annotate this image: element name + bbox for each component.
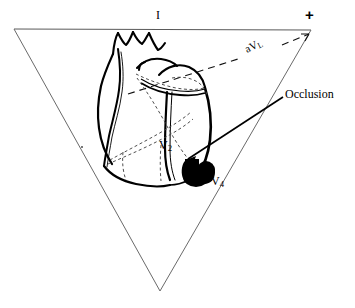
occlusion-label: Occlusion xyxy=(285,88,334,100)
ascending-aorta-outline xyxy=(98,54,113,164)
arch-descending-limb xyxy=(149,33,165,50)
brachiocephalic-branch xyxy=(113,33,118,54)
lead-I-label: I xyxy=(156,9,160,21)
einthoven-triangle xyxy=(14,29,311,291)
triangle-edge-lead-I xyxy=(14,29,311,30)
dashed-lv-cavity xyxy=(110,112,191,160)
lead-I-text: I xyxy=(156,8,160,22)
appendage-tip-hook xyxy=(139,62,145,70)
positive-pole-label: + xyxy=(305,7,314,22)
interventricular-groove-left xyxy=(165,92,170,180)
v3-prefix-text: V xyxy=(186,159,195,173)
occlusion-pointer xyxy=(186,97,283,165)
reference-dot xyxy=(81,146,83,148)
avl-axis xyxy=(128,34,309,94)
v2-prefix-text: V xyxy=(159,138,168,152)
v2-label: V2 xyxy=(159,139,172,153)
occlusion-text: Occlusion xyxy=(285,87,334,101)
v2-subscript-text: 2 xyxy=(168,143,172,153)
left-subclavian-branch xyxy=(133,32,149,44)
v3-label: V3 xyxy=(186,160,199,174)
left-carotid-branch xyxy=(118,32,133,45)
v3-subscript-text: 3 xyxy=(195,164,199,174)
v4-prefix-text: V xyxy=(211,174,220,188)
occlusion-pointer-line xyxy=(188,97,283,159)
v4-subscript-text: 4 xyxy=(220,179,224,189)
left-heart-border xyxy=(104,49,120,166)
figure-root: I + aVL Occlusion V2 V3 V4 xyxy=(0,0,355,308)
aortic-arch-branches xyxy=(113,32,165,54)
v4-label: V4 xyxy=(211,175,224,189)
left-atrium-dome xyxy=(159,65,205,87)
dashed-inferior-rim xyxy=(108,119,193,164)
positive-pole-text: + xyxy=(305,6,314,23)
einthoven-triangle-heart-diagram xyxy=(0,0,355,308)
triangle-edge-lead-III xyxy=(160,30,311,291)
